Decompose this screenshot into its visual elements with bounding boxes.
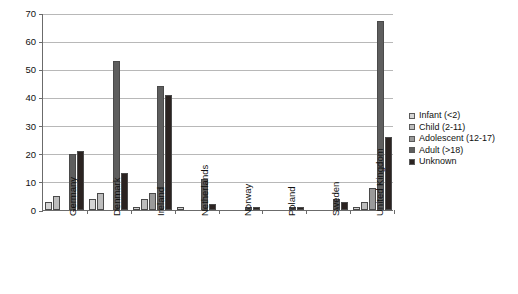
bar <box>353 207 360 210</box>
bar-group <box>175 14 219 210</box>
bar <box>89 199 96 210</box>
x-axis-tick <box>350 210 351 214</box>
y-axis-label-0: 0 <box>31 206 36 216</box>
x-axis-tick <box>394 210 395 214</box>
bar <box>45 202 52 210</box>
y-axis-label-10: 10 <box>25 178 36 188</box>
bar <box>297 207 304 210</box>
y-axis-label-70: 70 <box>25 9 36 19</box>
bar <box>141 199 148 210</box>
x-axis-label-poland: Poland <box>287 186 297 216</box>
legend-item[interactable]: Child (2-11) <box>409 122 514 134</box>
y-axis-label-30: 30 <box>25 122 36 132</box>
bar-chart: 010203040506070 GermanyDenmarkIrelandNet… <box>0 0 518 294</box>
x-axis-label-sweden: Sweden <box>331 182 341 216</box>
legend-swatch-icon <box>409 113 415 119</box>
bar-group <box>262 14 306 210</box>
bar <box>209 204 216 210</box>
bar <box>97 193 104 210</box>
legend-item-label: Infant (<2) <box>419 111 460 120</box>
legend-item[interactable]: Unknown <box>409 156 514 168</box>
y-axis-label-20: 20 <box>25 150 36 160</box>
x-axis-label-ireland: Ireland <box>156 187 166 216</box>
legend-swatch-icon <box>409 124 415 130</box>
bar <box>361 202 368 210</box>
y-axis-label-60: 60 <box>25 37 36 47</box>
x-axis-tick <box>87 210 88 214</box>
bar-group <box>131 14 175 210</box>
x-axis-label-norway: Norway <box>243 184 253 216</box>
chart-legend: Infant (<2)Child (2-11)Adolescent (12-17… <box>409 110 514 168</box>
legend-swatch-icon <box>409 136 415 142</box>
legend-item[interactable]: Adolescent (12-17) <box>409 133 514 145</box>
x-axis-tick <box>131 210 132 214</box>
bar <box>177 207 184 210</box>
bar <box>341 202 348 210</box>
bar-group <box>87 14 131 210</box>
bar <box>385 137 392 210</box>
x-axis-tick <box>306 210 307 214</box>
bar-group <box>43 14 87 210</box>
x-axis-label-united-kingdom: United Kingdom <box>375 148 385 216</box>
legend-item-label: Adult (>18) <box>419 146 463 155</box>
y-axis-label-40: 40 <box>25 94 36 104</box>
x-axis-label-germany: Germany <box>68 177 78 216</box>
bar <box>77 151 84 210</box>
bar-group <box>306 14 350 210</box>
legend-item[interactable]: Infant (<2) <box>409 110 514 122</box>
bar-group <box>219 14 263 210</box>
bar <box>253 207 260 210</box>
legend-item-label: Adolescent (12-17) <box>419 134 495 143</box>
bar <box>121 173 128 210</box>
x-axis-tick <box>219 210 220 214</box>
legend-item-label: Unknown <box>419 157 457 166</box>
bar-group <box>350 14 394 210</box>
legend-item[interactable]: Adult (>18) <box>409 145 514 157</box>
legend-item-label: Child (2-11) <box>419 123 465 132</box>
legend-swatch-icon <box>409 159 415 165</box>
legend-swatch-icon <box>409 147 415 153</box>
bar <box>165 95 172 210</box>
bar <box>53 196 60 210</box>
x-axis-label-netherlands: Netherlands <box>200 165 210 216</box>
x-axis-tick <box>262 210 263 214</box>
y-axis-tick-0 <box>39 211 43 212</box>
bar <box>133 207 140 210</box>
x-axis-tick <box>175 210 176 214</box>
y-axis-label-50: 50 <box>25 66 36 76</box>
x-axis-label-denmark: Denmark <box>112 177 122 216</box>
